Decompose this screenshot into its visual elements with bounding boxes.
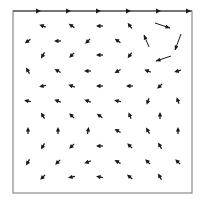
field-arrow-icon <box>83 159 91 166</box>
field-arrow-icon <box>96 144 103 148</box>
field-arrow-icon <box>96 24 103 28</box>
boundary-arrow-icon <box>66 9 71 14</box>
field-arrow-icon <box>39 83 47 89</box>
field-arrow-icon <box>67 22 75 30</box>
field-arrow-icon <box>143 68 151 75</box>
field-arrow-icon <box>38 23 46 30</box>
field-arrow-icon <box>54 39 61 43</box>
vortex-arrow-icon <box>175 34 181 50</box>
field-arrow-icon <box>96 174 104 180</box>
field-arrow-icon <box>176 127 180 134</box>
boundary-arrow-icon <box>126 9 131 14</box>
plot-frame <box>13 11 192 193</box>
field-arrow-icon <box>156 172 163 180</box>
field-arrow-icon <box>113 37 121 45</box>
vector-field-plot <box>0 0 201 207</box>
field-arrow-icon <box>113 68 121 75</box>
boundary-arrow-icon <box>36 9 41 14</box>
field-arrow-icon <box>96 84 103 88</box>
vortex-arrow-icon <box>144 35 149 47</box>
boundary-arrow-icon <box>186 9 191 14</box>
field-arrow-icon <box>39 142 46 150</box>
field-arrow-icon <box>156 141 163 149</box>
field-arrow-icon <box>39 51 46 59</box>
field-arrow-icon <box>144 126 151 134</box>
field-arrow-icon <box>127 111 134 119</box>
field-arrow-icon <box>126 51 134 59</box>
field-arrow-icon <box>68 142 76 150</box>
field-arrow-icon <box>158 112 162 119</box>
vortex-arrow-icon <box>155 23 170 28</box>
field-arrow-icon <box>39 111 46 119</box>
field-arrow-icon <box>24 98 32 104</box>
field-arrow-icon <box>24 158 31 166</box>
field-arrow-icon <box>56 127 60 134</box>
vortex-arrow-icon <box>156 56 171 61</box>
field-arrow-icon <box>113 158 121 165</box>
field-arrow-icon <box>68 174 76 180</box>
field-arrow-icon <box>145 97 152 105</box>
field-arrow-icon <box>84 37 92 45</box>
field-arrow-icon <box>96 53 103 57</box>
boundary-arrow-icon <box>156 9 161 14</box>
field-arrow-icon <box>114 98 122 104</box>
field-arrow-icon <box>156 82 164 90</box>
field-arrow-icon <box>83 98 91 105</box>
field-arrow-icon <box>174 68 182 74</box>
field-arrow-icon <box>174 158 182 166</box>
field-arrow-icon <box>144 158 152 166</box>
field-arrow-icon <box>26 127 30 134</box>
field-arrow-icon <box>126 21 134 29</box>
field-arrow-icon <box>54 158 62 166</box>
field-arrow-icon <box>67 83 75 90</box>
field-arrow-icon <box>95 112 103 120</box>
field-arrow-icon <box>126 142 134 150</box>
field-arrow-icon <box>113 127 121 134</box>
field-arrow-icon <box>126 173 134 181</box>
boundary-arrow-icon <box>96 9 101 14</box>
field-arrow-icon <box>53 98 61 105</box>
large-arrow-vortex <box>144 23 181 61</box>
field-arrow-icon <box>68 51 76 59</box>
field-arrow-icon <box>53 67 61 74</box>
field-arrow-icon <box>84 69 91 73</box>
field-arrow-icon <box>175 96 182 104</box>
field-arrow-icon <box>23 37 31 45</box>
field-arrow-icon <box>126 84 133 88</box>
field-arrow-icon <box>68 112 76 120</box>
field-arrow-icon <box>24 66 31 74</box>
field-arrow-icon <box>39 173 47 181</box>
field-arrow-icon <box>85 127 91 135</box>
small-arrow-field <box>23 21 181 181</box>
